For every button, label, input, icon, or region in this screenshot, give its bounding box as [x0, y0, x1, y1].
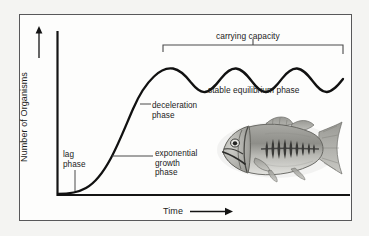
figure-root: carrying capacity stable equilibrium pha…: [0, 0, 369, 236]
annotation-lag-phase: lag phase: [63, 150, 86, 169]
annotation-stable-equilibrium-phase: stable equilibrium phase: [208, 86, 300, 96]
y-axis-label: Number of Organisms: [19, 62, 29, 172]
annotation-carrying-capacity: carrying capacity: [216, 32, 280, 42]
x-axis-label: Time: [163, 206, 183, 216]
annotation-exponential-growth-phase: exponential growth phase: [155, 149, 197, 178]
annotation-deceleration-phase: deceleration phase: [152, 101, 197, 120]
largemouth-bass-fish-icon: [215, 108, 343, 186]
